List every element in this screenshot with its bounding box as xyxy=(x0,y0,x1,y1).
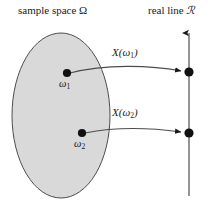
omega2-subscript: 2 xyxy=(81,142,85,151)
real-line-title: real line ℛ xyxy=(148,5,195,16)
real-line-point-1 xyxy=(184,67,193,76)
mapping-1-close-paren: ) xyxy=(134,46,138,58)
real-line-title-text: real line xyxy=(148,4,186,16)
sample-space-title: sample space Ω xyxy=(18,5,87,16)
mapping-label-1: X(ω1) xyxy=(112,47,138,59)
sample-space-ellipse xyxy=(12,33,110,198)
sample-point-omega1 xyxy=(63,69,71,77)
random-variable-diagram: sample space Ω real line ℛ ω1 ω2 X(ω1) X… xyxy=(0,0,214,206)
real-line-point-2 xyxy=(184,128,193,137)
mapping-1-function: X xyxy=(112,46,119,58)
mapping-2-close-paren: ) xyxy=(134,106,138,118)
mapping-label-2: X(ω2) xyxy=(112,107,138,119)
omega1-label: ω1 xyxy=(59,79,70,90)
diagram-canvas xyxy=(0,0,214,206)
sample-point-omega2 xyxy=(78,129,86,137)
omega2-label: ω2 xyxy=(74,139,85,150)
mapping-2-function: X xyxy=(112,106,119,118)
script-r-symbol: ℛ xyxy=(186,4,195,16)
omega1-subscript: 1 xyxy=(66,82,70,91)
